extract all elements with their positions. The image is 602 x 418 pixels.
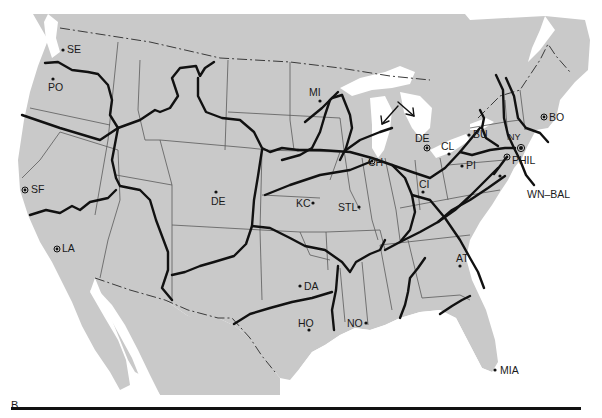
city-label-da: DA	[304, 281, 319, 292]
city-label-mia: MIA	[500, 365, 519, 376]
city-label-ch: CH	[368, 157, 383, 168]
city-marker-stl	[357, 205, 360, 208]
city-label-bu: BU	[473, 129, 488, 140]
city-marker-pi	[460, 164, 463, 167]
city-label-ho: HO	[298, 318, 314, 329]
us-map	[0, 0, 602, 418]
city-marker-at	[458, 264, 461, 267]
city-label-ci: CI	[419, 179, 430, 190]
city-label-at: AT	[456, 253, 469, 264]
city-marker-wn-bal	[498, 174, 501, 177]
city-marker-da	[298, 284, 301, 287]
city-label-bo: BO	[549, 112, 564, 123]
city-label-ny: NY	[508, 133, 521, 142]
city-marker-cl	[447, 152, 450, 155]
bottom-rule	[11, 407, 581, 410]
city-label-no: NO	[347, 318, 363, 329]
city-label-wn-bal: WN–BAL	[527, 189, 570, 200]
city-label-pi: PI	[466, 160, 476, 171]
city-label-phil: PHIL	[512, 155, 535, 166]
city-label-mi: MI	[309, 87, 321, 98]
city-label-cl: CL	[441, 141, 454, 152]
city-label-sf: SF	[31, 184, 44, 195]
city-marker-mia	[493, 368, 496, 371]
city-marker-denver	[214, 190, 217, 193]
city-marker-no	[364, 321, 367, 324]
city-marker-bu	[467, 133, 470, 136]
city-marker-mi	[318, 99, 321, 102]
city-label-po: PO	[48, 82, 63, 93]
city-marker-ci	[421, 190, 424, 193]
city-label-stl: STL	[338, 202, 357, 213]
city-label-se: SE	[67, 44, 81, 55]
city-marker-kc	[311, 201, 314, 204]
city-label-detroit: DE	[415, 133, 430, 144]
city-marker-se	[61, 48, 64, 51]
city-label-denver: DE	[211, 196, 226, 207]
city-label-la: LA	[62, 243, 75, 254]
city-label-kc: KC	[296, 198, 311, 209]
